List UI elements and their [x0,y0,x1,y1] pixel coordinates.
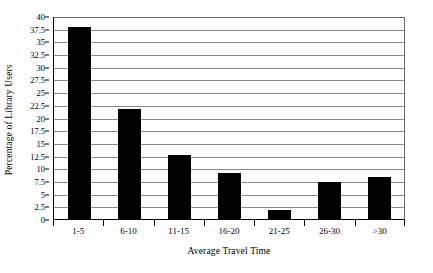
y-axis-tick-mark [45,55,49,56]
bar-series [54,17,404,219]
y-axis-tick-mark [45,105,49,106]
y-axis-title-text: Percentage of Library Users [4,65,14,176]
bar-slot [254,17,304,219]
x-axis-tick-label: 16-20 [204,227,254,242]
x-axis-tick-label: 11-15 [154,227,204,242]
y-axis-tick-mark [45,42,49,43]
y-axis-tick-mark [45,169,49,170]
bar-11-15 [168,155,191,219]
x-axis-tick-label: 21-25 [254,227,304,242]
bar-21-25 [268,210,291,219]
bar-slot [154,17,204,219]
x-axis-tick-label: >30 [355,227,405,242]
y-axis-tick-mark [45,93,49,94]
y-axis-tick-mark [45,194,49,195]
bar-slot [104,17,154,219]
x-axis-tick-mark [404,220,405,226]
y-axis-tick-label: 37.5 [30,25,45,34]
y-axis-tick-label: 7.5 [34,178,45,187]
bar-slot [354,17,404,219]
y-axis-tick-label: 30 [37,64,46,73]
x-axis-tick-mark [53,220,54,226]
x-axis-title: Average Travel Time [53,246,405,256]
x-axis-tick-label: 26-30 [304,227,354,242]
x-axis-tick-mark [204,220,205,226]
y-axis-tick-mark [45,131,49,132]
bar-1-5 [68,27,91,219]
y-axis-tick-mark [45,207,49,208]
y-axis-tick-mark [45,80,49,81]
x-axis-tick-mark [254,220,255,226]
x-axis-tick-mark [304,220,305,226]
y-axis-tick-labels: 4037.53532.53027.52522.52017.51512.5107.… [16,17,49,220]
y-axis-tick-mark [45,67,49,68]
bar-slot [204,17,254,219]
y-axis-tick-mark [45,29,49,30]
bar-16-20 [218,173,241,219]
y-axis-tick-mark [45,181,49,182]
bar-6-10 [118,109,141,219]
bar-26-30 [318,182,341,219]
x-axis-tick-label: 6-10 [103,227,153,242]
bar->30 [368,177,391,219]
y-axis-tick-mark [45,17,49,18]
bar-slot [304,17,354,219]
x-axis-tick-mark [154,220,155,226]
x-axis-tick-mark [103,220,104,226]
y-axis-tick-label: 32.5 [30,51,45,60]
y-axis-tick-label: 20 [37,114,46,123]
y-axis-tick-label: 12.5 [30,152,45,161]
y-axis-tick-mark [45,143,49,144]
plot-area [53,17,405,220]
y-axis-tick-label: 10 [37,165,46,174]
y-axis-tick-label: 15 [37,140,46,149]
y-axis-tick-label: 2.5 [34,203,45,212]
y-axis-tick-mark [45,156,49,157]
y-axis-tick-mark [45,118,49,119]
y-axis-tick-label: 25 [37,89,46,98]
x-axis-tick-labels: 1-56-1011-1516-2021-2526-30>30 [53,227,405,242]
y-axis-tick-mark [45,220,49,221]
x-axis-tick-mark [355,220,356,226]
bar-chart: Percentage of Library Users 4037.53532.5… [0,0,433,273]
bar-slot [54,17,104,219]
y-axis-tick-label: 27.5 [30,76,45,85]
y-axis-tick-label: 35 [37,38,46,47]
y-axis-tick-label: 22.5 [30,102,45,111]
y-axis-tick-label: 17.5 [30,127,45,136]
y-axis-tick-label: 40 [37,13,46,22]
x-axis-tick-label: 1-5 [53,227,103,242]
